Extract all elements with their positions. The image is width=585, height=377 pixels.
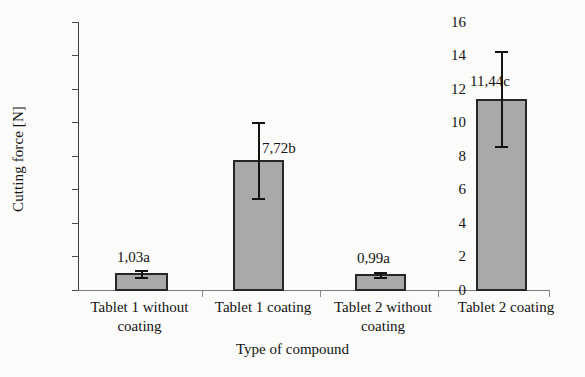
y-tick-mark — [72, 256, 78, 257]
error-bar-stem — [501, 51, 503, 148]
value-label-tablet-2-without-coating: 0,99a — [357, 251, 390, 266]
y-tick-mark — [72, 22, 78, 23]
error-bar-tablet-2-without-coating — [355, 272, 406, 279]
y-tick-label: 2 — [426, 249, 466, 264]
y-tick-mark — [72, 122, 78, 123]
error-bar-cap-top — [252, 122, 265, 124]
x-tick-mark — [202, 291, 203, 297]
y-tick-label: 4 — [426, 216, 466, 231]
x-category-label-2: Tablet 1 coating — [204, 298, 322, 317]
bar-chart-figure: Cutting force [N] Type of compound 0 2 4… — [0, 0, 585, 377]
y-tick-label: 6 — [426, 182, 466, 197]
error-bar-cap-top — [495, 51, 508, 53]
y-axis-title: Cutting force [N] — [10, 9, 32, 309]
y-tick-label: 0 — [426, 283, 466, 298]
y-tick-mark — [72, 55, 78, 56]
error-bar-tablet-1-without-coating — [115, 270, 168, 279]
y-tick-mark — [72, 89, 78, 90]
x-tick-mark — [320, 291, 321, 297]
x-tick-mark — [549, 291, 550, 297]
plot-area: 0 2 4 6 8 10 12 14 16 1,03a 7,72b — [78, 22, 550, 291]
y-tick-mark — [72, 189, 78, 190]
y-axis-line — [78, 22, 79, 291]
error-bar-cap-top — [374, 272, 387, 274]
y-tick-mark — [72, 223, 78, 224]
error-bar-cap-top — [135, 270, 148, 272]
error-bar-tablet-2-coating — [476, 51, 527, 148]
error-bar-stem — [258, 122, 260, 200]
error-bar-tablet-1-coating — [233, 122, 284, 200]
error-bar-cap-bottom — [135, 277, 148, 279]
x-category-label-3: Tablet 2 without coating — [318, 298, 448, 336]
error-bar-cap-bottom — [252, 198, 265, 200]
value-label-tablet-1-without-coating: 1,03a — [117, 250, 150, 265]
error-bar-cap-bottom — [374, 277, 387, 279]
y-tick-mark — [72, 156, 78, 157]
y-tick-label: 12 — [426, 82, 466, 97]
value-label-tablet-2-coating: 11,44c — [470, 74, 510, 89]
value-label-tablet-1-coating: 7,72b — [262, 141, 296, 156]
x-category-label-1: Tablet 1 without coating — [72, 298, 207, 336]
error-bar-cap-bottom — [495, 146, 508, 148]
y-tick-label: 14 — [426, 48, 466, 63]
x-category-label-4: Tablet 2 coating — [444, 298, 568, 317]
x-axis-title: Type of compound — [0, 341, 585, 358]
x-tick-mark — [438, 291, 439, 297]
y-tick-label: 8 — [426, 149, 466, 164]
y-tick-label: 16 — [426, 15, 466, 30]
y-tick-label: 10 — [426, 115, 466, 130]
y-tick-mark — [72, 290, 78, 291]
